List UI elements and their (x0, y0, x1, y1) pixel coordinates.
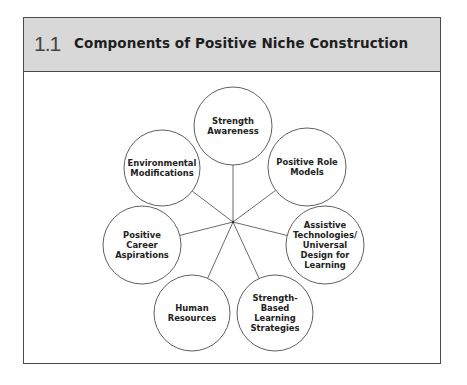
node-environmental-modifications: EnvironmentalModifications (124, 130, 200, 206)
node-assistive-technologies: AssistiveTechnologies/UniversalDesign fo… (286, 206, 364, 284)
figure-frame: 1.1 Components of Positive Niche Constru… (23, 17, 441, 364)
figure-number: 1.1 (34, 32, 60, 56)
figure-header: 1.1 Components of Positive Niche Constru… (24, 18, 440, 72)
node-label: EnvironmentalModifications (128, 158, 197, 178)
node-positive-role-models: Positive RoleModels (268, 128, 346, 206)
node-label: StrengthAwareness (207, 116, 258, 136)
figure-title: Components of Positive Niche Constructio… (74, 35, 408, 51)
node-positive-career-aspirations: PositiveCareerAspirations (103, 206, 181, 284)
node-strength-awareness: StrengthAwareness (194, 87, 272, 165)
node-human-resources: HumanResources (154, 275, 230, 351)
node-label: Strength-BasedLearningStrategies (250, 293, 299, 334)
node-strength-based-learning-strategies: Strength-BasedLearningStrategies (237, 275, 313, 351)
